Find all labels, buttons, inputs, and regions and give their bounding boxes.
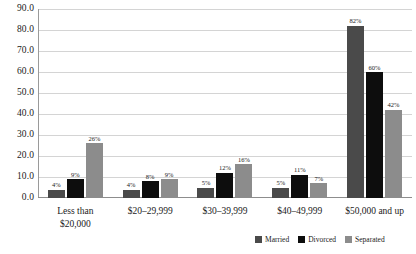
y-tick-label: 70.0	[17, 45, 34, 55]
x-tick-label: $50,000 and up	[337, 205, 412, 218]
bar-rect	[123, 190, 140, 198]
bar-rect	[48, 190, 65, 198]
bar-value-label: 60%	[355, 64, 395, 71]
x-tick-label: $30–39,999	[188, 205, 263, 218]
y-tick-label: 40.0	[17, 108, 34, 118]
bar-rect	[142, 181, 159, 198]
bar-rect	[385, 110, 402, 198]
legend-item-married[interactable]: Married	[255, 235, 289, 244]
legend-label: Divorced	[308, 235, 336, 244]
y-tick-label: 0.0	[22, 192, 34, 202]
bar-rect	[235, 164, 252, 198]
x-tick-label: $40–49,999	[262, 205, 337, 218]
bar-rect	[272, 188, 289, 199]
legend-label: Separated	[355, 235, 385, 244]
y-axis: 90.080.070.060.050.040.030.020.010.00.0	[0, 8, 34, 198]
bars-layer: 4%9%26%4%8%9%5%12%16%5%11%7%82%60%42%	[38, 9, 412, 198]
bar-rect	[197, 188, 214, 199]
x-tick-label: $20–29,999	[113, 205, 188, 218]
bar-group: 82%60%42%	[337, 9, 412, 198]
y-tick-label: 90.0	[17, 3, 34, 13]
bar-value-label: 42%	[374, 101, 414, 108]
bar-rect	[67, 179, 84, 198]
y-tick-label: 50.0	[17, 87, 34, 97]
y-tick-label: 20.0	[17, 150, 34, 160]
legend-swatch	[345, 236, 352, 243]
y-tick-label: 10.0	[17, 171, 34, 181]
bar-rect	[310, 183, 327, 198]
bar-value-label: 11%	[280, 166, 320, 173]
bar-rect	[161, 179, 178, 198]
y-tick-label: 30.0	[17, 129, 34, 139]
bar-chart-figure: 90.080.070.060.050.040.030.020.010.00.0 …	[0, 0, 416, 254]
bar-rect	[366, 72, 383, 198]
legend-item-separated[interactable]: Separated	[345, 235, 385, 244]
bar-value-label: 9%	[149, 171, 189, 178]
bar-rect	[86, 143, 103, 198]
chart-legend: MarriedDivorcedSeparated	[255, 235, 385, 244]
bar-value-label: 26%	[74, 135, 114, 142]
y-tick-label: 60.0	[17, 66, 34, 76]
x-tick-label: Less than $20,000	[38, 205, 113, 230]
bar-rect	[216, 173, 233, 198]
legend-item-divorced[interactable]: Divorced	[298, 235, 336, 244]
bar-value-label: 16%	[224, 156, 264, 163]
bar-value-label: 82%	[336, 17, 376, 24]
bar-group: 5%11%7%	[262, 9, 337, 198]
legend-swatch	[298, 236, 305, 243]
bar-group: 5%12%16%	[188, 9, 263, 198]
bar-group: 4%8%9%	[113, 9, 188, 198]
bar-group: 4%9%26%	[38, 9, 113, 198]
y-tick-label: 80.0	[17, 24, 34, 34]
legend-swatch	[255, 236, 262, 243]
bar-value-label: 7%	[299, 175, 339, 182]
bar-rect	[347, 26, 364, 198]
legend-label: Married	[265, 235, 289, 244]
